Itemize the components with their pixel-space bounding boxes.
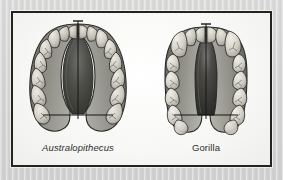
figure-plate-inner: Australopithecus [13, 13, 270, 165]
specimen-gorilla: Gorilla [143, 15, 269, 165]
figure-root: Australopithecus [0, 0, 283, 180]
specimen-label-australopithecus: Australopithecus [15, 141, 141, 154]
jaw-illustration-australopithecus [15, 15, 141, 141]
figure-plate: Australopithecus [11, 11, 272, 167]
specimen-australopithecus: Australopithecus [15, 15, 141, 165]
jaw-illustration-gorilla [143, 15, 269, 141]
specimen-label-gorilla: Gorilla [143, 141, 269, 154]
